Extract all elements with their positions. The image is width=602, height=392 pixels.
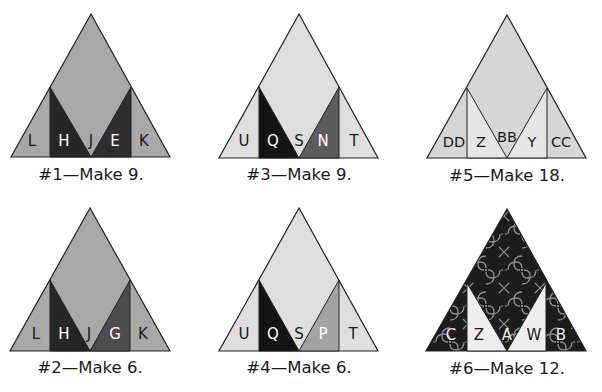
- block-4-label-2: Q: [267, 325, 279, 343]
- block-3-caption: #3—Make 9.: [246, 165, 351, 184]
- block-3: U Q S N T #3—Make 9.: [219, 14, 378, 184]
- block-4-label-4: P: [318, 325, 327, 343]
- block-6-label-5: B: [556, 326, 566, 344]
- block-2-label-1: L: [32, 325, 41, 343]
- block-5-caption: #5—Make 18.: [449, 166, 565, 185]
- block-5-label-5: CC: [551, 134, 571, 150]
- block-1-label-3: J: [88, 132, 93, 150]
- block-1-label-1: L: [28, 132, 37, 150]
- block-6-label-3: A: [502, 326, 513, 344]
- block-2-label-4: G: [109, 325, 121, 343]
- block-5-label-4: Y: [527, 134, 537, 150]
- block-2: L H J G K #2—Make 6.: [10, 208, 170, 377]
- block-4-caption: #4—Make 6.: [246, 358, 351, 377]
- block-3-label-4: N: [317, 132, 328, 150]
- block-1-label-5: K: [139, 132, 150, 150]
- block-5-label-1: DD: [443, 134, 465, 150]
- block-6-label-2: Z: [474, 326, 484, 344]
- block-1-caption: #1—Make 9.: [38, 165, 143, 184]
- block-3-label-5: T: [348, 132, 359, 150]
- block-1: L H J E K #1—Make 9.: [11, 14, 170, 184]
- block-1-label-4: E: [110, 132, 119, 150]
- block-6-label-4: W: [527, 326, 542, 344]
- block-3-label-2: Q: [267, 132, 279, 150]
- quilt-block-diagram: L H J E K #1—Make 9. U Q S N T #3—Make 9…: [0, 0, 602, 392]
- block-4-label-3: S: [294, 325, 304, 343]
- block-6-label-1: C: [446, 326, 456, 344]
- block-3-label-1: U: [239, 132, 250, 150]
- block-5: DD Z BB Y CC #5—Make 18.: [427, 15, 586, 185]
- block-2-label-5: K: [138, 325, 149, 343]
- block-2-label-3: J: [86, 325, 91, 343]
- block-6: C Z A W B #6—Make 12.: [426, 209, 586, 378]
- block-2-caption: #2—Make 6.: [37, 358, 142, 377]
- block-4-label-1: U: [239, 325, 250, 343]
- block-5-label-2: Z: [476, 134, 486, 150]
- block-4: U Q S P T #4—Make 6.: [219, 208, 378, 377]
- block-3-label-3: S: [294, 132, 304, 150]
- block-4-label-5: T: [347, 325, 358, 343]
- block-6-caption: #6—Make 12.: [449, 359, 565, 378]
- block-1-label-2: H: [58, 132, 69, 150]
- block-5-label-3: BB: [497, 129, 517, 145]
- block-2-label-2: H: [58, 325, 69, 343]
